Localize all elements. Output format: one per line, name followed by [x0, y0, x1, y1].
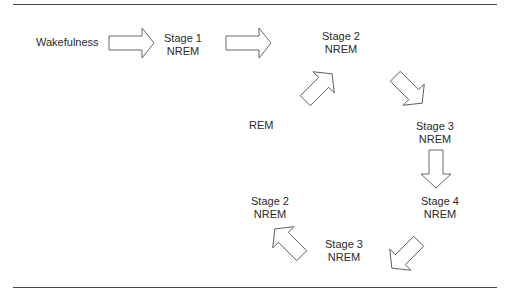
arrow-down-left-icon — [381, 231, 429, 279]
arrow-right-icon — [226, 28, 271, 58]
arrow-down-right-icon — [385, 66, 433, 114]
arrow-up-right-icon — [295, 63, 343, 111]
arrows-layer — [0, 0, 509, 294]
arrow-up-left-icon — [264, 218, 312, 266]
arrow-right-icon — [109, 28, 154, 58]
arrow-down-icon — [421, 150, 451, 188]
